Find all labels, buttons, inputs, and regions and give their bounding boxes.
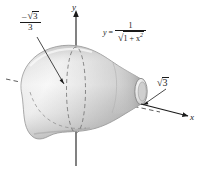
radicand: 3 <box>162 77 169 88</box>
label-equation: y = 1 √1 + x2 <box>103 22 146 44</box>
radical-group: √1 + x2 <box>117 31 144 43</box>
radicand: 1 + x2 <box>123 31 145 43</box>
equation-numerator: 1 <box>115 22 146 31</box>
radical-group: √3 <box>156 77 169 88</box>
radicand-base: 1 + x <box>124 34 141 43</box>
label-sqrt3: √3 <box>156 77 169 88</box>
fraction-numerator: –√3 <box>20 11 41 23</box>
solid-right-rim-inner <box>138 82 146 101</box>
fraction-neg-sqrt3-over-3: –√3 3 <box>20 11 41 32</box>
label-neg-sqrt3-over-3: –√3 3 <box>20 11 41 32</box>
figure-solid-of-revolution: –√3 3 √3 y = 1 √1 + x2 y x <box>0 0 202 174</box>
equation-equals: = <box>109 29 114 37</box>
axis-label-x: x <box>190 113 194 122</box>
equation-denominator: √1 + x2 <box>115 31 146 43</box>
radicand-exponent: 2 <box>140 32 143 38</box>
equation-fraction: 1 √1 + x2 <box>115 22 146 44</box>
fraction-denominator: 3 <box>20 23 41 32</box>
radical-group: √3 <box>27 11 39 22</box>
equation-lhs: y <box>103 29 107 37</box>
x-axis <box>141 104 188 116</box>
radicand: 3 <box>32 11 39 21</box>
solid-of-revolution <box>21 45 147 139</box>
axis-label-y: y <box>72 3 76 12</box>
